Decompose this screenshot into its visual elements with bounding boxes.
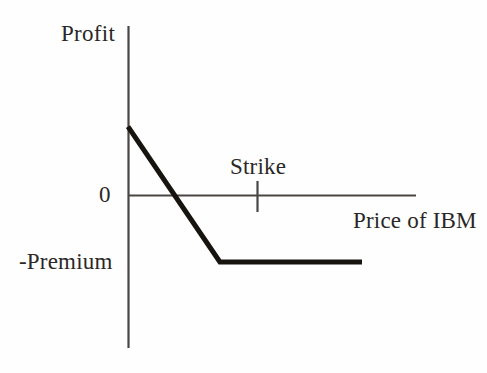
y-axis-title: Profit xyxy=(61,22,115,45)
payoff-diagram-figure: Profit 0 -Premium Strike Price of IBM xyxy=(0,0,487,373)
strike-marker-label: Strike xyxy=(230,155,286,178)
y-axis-zero-tick-label: 0 xyxy=(99,183,111,206)
payoff-plot-svg xyxy=(0,0,487,373)
x-axis-title: Price of IBM xyxy=(353,209,477,232)
payoff-curve xyxy=(128,127,362,262)
y-axis-premium-tick-label: -Premium xyxy=(19,250,113,273)
